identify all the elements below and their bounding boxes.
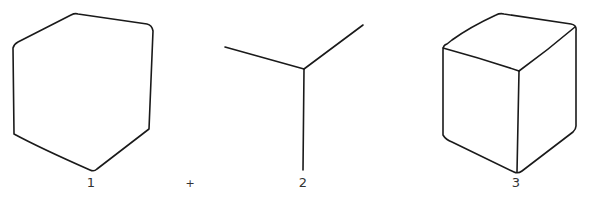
panel-label-2: 2 xyxy=(299,176,307,189)
cube-silhouette-outline xyxy=(13,14,153,171)
vertical-edge xyxy=(303,69,304,170)
completed-cube-vertical-edge xyxy=(517,71,519,172)
completed-cube xyxy=(443,14,576,173)
cube-drawing-diagram: 1 + 2 3 xyxy=(0,0,592,205)
completed-cube-top-right-edge xyxy=(519,27,575,71)
left-top-edge xyxy=(225,47,304,69)
panel-label-1: 1 xyxy=(87,176,95,189)
cube-inner-edges xyxy=(225,25,363,170)
right-top-edge xyxy=(304,25,363,69)
completed-cube-top-left-edge xyxy=(443,48,519,71)
plus-operator: + xyxy=(185,178,194,189)
completed-cube-outline xyxy=(443,14,576,173)
panel-label-3: 3 xyxy=(512,176,520,189)
